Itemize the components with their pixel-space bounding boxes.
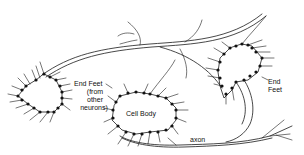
label-end-feet-left-neurons: neurons) (76, 104, 112, 111)
left-neuron (8, 62, 72, 122)
neuron-diagram: End Feet (from other neurons) Cell Body … (0, 0, 304, 155)
upper-axon (42, 14, 266, 88)
label-end-feet-left-other: other (80, 96, 110, 103)
label-cell-body: Cell Body (126, 110, 156, 117)
label-end-feet-right-1: End (268, 78, 280, 85)
label-axon: axon (190, 136, 205, 143)
right-neuron (206, 16, 274, 142)
neuron-drawing (0, 0, 304, 155)
label-end-feet-left-from: (from (80, 88, 110, 95)
lower-axon (120, 120, 292, 147)
label-end-feet-left: End Feet (74, 80, 102, 87)
middle-neuron (104, 60, 188, 146)
label-end-feet-right-2: Feet (268, 86, 282, 93)
